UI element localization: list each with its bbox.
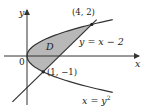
line-curve <box>12 20 96 102</box>
region-d <box>27 24 92 71</box>
line-equation-label: y = x − 2 <box>78 36 124 47</box>
y-axis-label: y <box>18 7 25 18</box>
origin-label: 0 <box>19 57 25 67</box>
point-label-4-2: (4, 2) <box>72 7 95 17</box>
x-axis-label: x <box>135 58 141 69</box>
parabola-equation-label: x = y2 <box>82 94 111 106</box>
point-marker <box>90 23 93 26</box>
point-marker <box>42 70 45 73</box>
region-diagram: y x 0 D (4, 2) (1, −1) y = x − 2 x = y2 <box>0 0 143 108</box>
point-label-1-neg1: (1, −1) <box>47 67 77 77</box>
region-label: D <box>45 41 54 52</box>
